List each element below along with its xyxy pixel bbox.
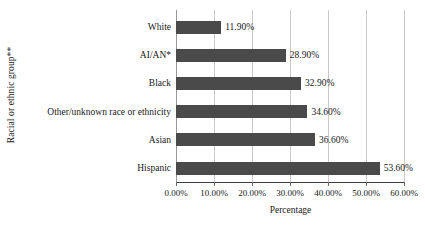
x-tick-mark	[252, 182, 253, 186]
bar-row: Other/unknown race or ethnicity34.60%	[176, 98, 405, 126]
x-tick-label: 20.00%	[238, 188, 266, 198]
category-label: Other/unknown race or ethnicity	[47, 98, 171, 126]
bar-value-label: 11.90%	[225, 13, 254, 41]
bar-value-label: 34.60%	[311, 98, 340, 126]
category-label: White	[148, 13, 171, 41]
bar-chart: Racial or ethnic group** White11.90%AI/A…	[0, 0, 425, 232]
bar-row: Black32.90%	[176, 69, 405, 97]
bar-row: Hispanic53.60%	[176, 154, 405, 182]
bar	[176, 105, 307, 118]
x-tick-mark	[366, 182, 367, 186]
x-tick-mark	[404, 182, 405, 186]
bar	[176, 49, 286, 62]
bar-value-label: 36.60%	[319, 126, 348, 154]
category-label: Black	[149, 69, 171, 97]
x-tick-label: 30.00%	[276, 188, 304, 198]
bar-row: White11.90%	[176, 13, 405, 41]
bar-row: AI/AN*28.90%	[176, 41, 405, 69]
bar	[176, 21, 221, 34]
x-tick-label: 60.00%	[390, 188, 418, 198]
x-tick-label: 40.00%	[314, 188, 342, 198]
plot-area: White11.90%AI/AN*28.90%Black32.90%Other/…	[176, 10, 405, 182]
x-tick-label: 10.00%	[200, 188, 228, 198]
bar	[176, 162, 380, 175]
x-axis-title: Percentage	[176, 205, 405, 215]
category-label: AI/AN*	[140, 41, 171, 69]
bar-value-label: 28.90%	[290, 41, 319, 69]
bar	[176, 133, 315, 146]
x-tick-mark	[214, 182, 215, 186]
y-axis-title-text: Racial or ethnic group**	[6, 47, 16, 144]
x-tick-mark	[290, 182, 291, 186]
category-label: Hispanic	[137, 154, 171, 182]
bar-row: Asian36.60%	[176, 126, 405, 154]
x-tick-label: 0.00%	[164, 188, 187, 198]
y-axis-title: Racial or ethnic group**	[0, 0, 22, 190]
bar-value-label: 32.90%	[305, 69, 334, 97]
category-label: Asian	[149, 126, 171, 154]
x-tick-mark	[176, 182, 177, 186]
bar	[176, 77, 301, 90]
bar-value-label: 53.60%	[384, 154, 413, 182]
x-tick-mark	[328, 182, 329, 186]
x-tick-label: 50.00%	[352, 188, 380, 198]
